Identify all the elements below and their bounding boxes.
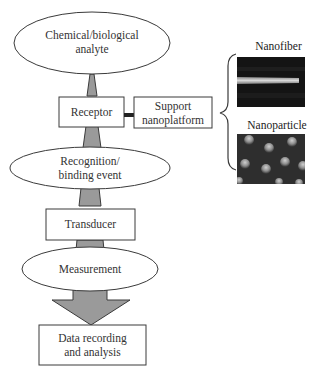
node-support-line-1: Support (134, 99, 212, 113)
nanoparticle-image (237, 134, 305, 184)
node-receptor-label: Receptor (59, 105, 124, 119)
node-data-line-2: and analysis (39, 345, 146, 359)
nanofiber-micrograph-icon (237, 57, 305, 107)
arrow-measurement-data (52, 290, 130, 325)
node-measurement-label: Measurement (30, 262, 150, 276)
connector-analyte-receptor (87, 74, 97, 96)
curly-bracket (220, 54, 236, 170)
node-recognition-line-2: binding event (30, 168, 150, 182)
nanoparticle-micrograph-icon (237, 134, 305, 184)
node-data: Data recording and analysis (39, 331, 146, 359)
node-analyte-line-2: analyte (20, 42, 164, 56)
node-analyte-line-1: Chemical/biological (20, 28, 164, 42)
connector-receptor-support (124, 113, 134, 117)
node-receptor: Receptor (59, 105, 124, 119)
node-transducer-label: Transducer (46, 217, 135, 231)
node-support-line-2: nanoplatform (134, 113, 212, 127)
connector-recognition-transducer (79, 188, 101, 206)
connector-receptor-recognition (83, 126, 101, 148)
node-transducer: Transducer (46, 217, 135, 231)
node-measurement: Measurement (30, 262, 150, 276)
node-data-line-1: Data recording (39, 331, 146, 345)
node-recognition-line-1: Recognition/ (30, 154, 150, 168)
nanofiber-image (237, 57, 305, 107)
nanoparticle-label: Nanoparticle (237, 119, 317, 131)
node-recognition: Recognition/ binding event (30, 154, 150, 182)
nanofiber-label: Nanofiber (240, 40, 317, 52)
node-analyte: Chemical/biological analyte (20, 28, 164, 56)
node-support: Support nanoplatform (134, 99, 212, 127)
